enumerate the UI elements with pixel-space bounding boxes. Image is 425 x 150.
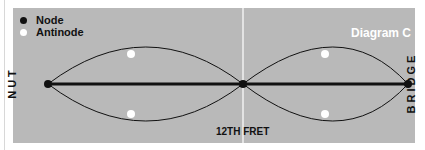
antinode-legend-icon <box>20 29 27 36</box>
node-nut <box>44 80 52 88</box>
legend-node-label: Node <box>36 14 64 26</box>
legend: Node Antinode <box>20 14 84 38</box>
antinode <box>127 110 135 118</box>
antinode <box>321 50 329 58</box>
node-12th-fret <box>239 80 247 88</box>
legend-antinode-label: Antinode <box>36 26 84 38</box>
bridge-label: BRIDGE <box>405 53 417 114</box>
antinode <box>127 50 135 58</box>
fret-label: 12TH FRET <box>216 126 269 137</box>
antinode <box>321 110 329 118</box>
node-legend-icon <box>20 17 27 24</box>
nut-label: NUT <box>6 67 18 99</box>
diagram-title: Diagram C <box>351 26 411 40</box>
